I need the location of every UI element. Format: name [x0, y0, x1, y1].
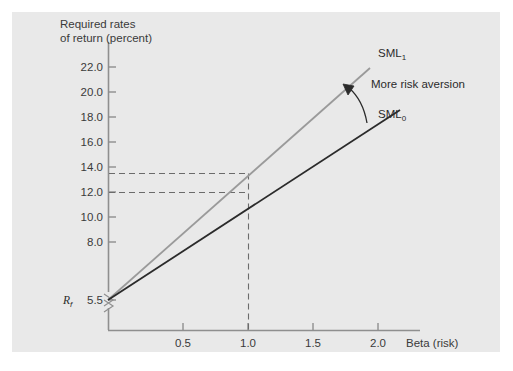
series-label-sml1: SML1 — [378, 47, 407, 62]
series-label-sml1-subscript: 1 — [402, 53, 407, 62]
chart-figure: 22.0 20.0 18.0 16.0 14.0 12.0 10.0 8.0 5… — [0, 0, 513, 371]
risk-free-rate-label: Rf — [62, 294, 73, 309]
y-axis-title-line1: Required rates — [60, 18, 136, 30]
y-axis-title-line2: of return (percent) — [60, 32, 152, 44]
annotation-more-risk-aversion: More risk aversion — [371, 78, 465, 90]
series-label-sml0-base: SML — [378, 108, 402, 120]
risk-aversion-arrow-arc — [349, 88, 367, 123]
y-tick-label-20: 20.0 — [81, 86, 103, 98]
x-axis-title: Beta (risk) — [406, 337, 459, 349]
y-tick-label-8: 8.0 — [87, 236, 103, 248]
series-line-sml0 — [108, 110, 400, 300]
series-label-sml0-subscript: 0 — [402, 114, 407, 123]
y-tick-label-22: 22.0 — [81, 61, 103, 73]
y-tick-label-18: 18.0 — [81, 111, 103, 123]
y-tick-label-14: 14.0 — [81, 161, 103, 173]
series-line-sml1 — [108, 68, 370, 300]
x-tick-label-1-0: 1.0 — [240, 337, 256, 349]
y-tick-label-16: 16.0 — [81, 136, 103, 148]
y-tick-label-12: 12.0 — [81, 186, 103, 198]
security-market-line-chart: 22.0 20.0 18.0 16.0 14.0 12.0 10.0 8.0 5… — [0, 0, 513, 371]
x-tick-label-1-5: 1.5 — [305, 337, 321, 349]
x-tick-label-0-5: 0.5 — [175, 337, 191, 349]
x-tick-label-2-0: 2.0 — [370, 337, 386, 349]
series-label-sml1-base: SML — [378, 47, 402, 59]
y-tick-label-5-5: 5.5 — [87, 294, 103, 306]
risk-free-symbol: R — [62, 294, 70, 306]
y-tick-label-10: 10.0 — [81, 211, 103, 223]
risk-free-subscript: f — [70, 300, 73, 309]
